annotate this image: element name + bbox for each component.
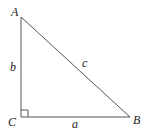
side-label-c: c: [82, 56, 88, 70]
side-c-line: [21, 17, 130, 117]
right-triangle-diagram: A C B b c a: [0, 0, 146, 134]
side-label-b: b: [10, 60, 16, 74]
vertex-label-c: C: [8, 115, 17, 129]
vertex-label-b: B: [133, 113, 141, 127]
vertex-label-a: A: [10, 5, 19, 19]
right-angle-marker: [21, 110, 28, 117]
side-label-a: a: [72, 117, 78, 131]
